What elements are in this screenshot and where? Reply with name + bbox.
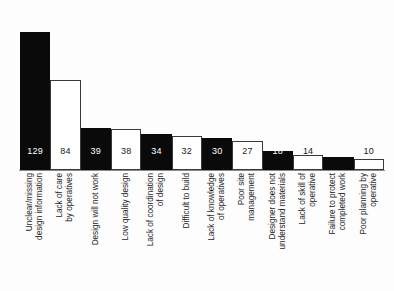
category-label-cell: Poor planning byoperative	[354, 173, 384, 287]
category-label-2: Design will not work	[91, 173, 101, 287]
bar-cell[interactable]: 84	[50, 10, 80, 170]
bar-cell[interactable]: 27	[232, 10, 262, 170]
bar-11[interactable]: 10	[354, 159, 384, 170]
bar-1[interactable]: 84	[50, 80, 80, 170]
bar-value-label: 14	[303, 147, 313, 169]
bar-value-label: 32	[182, 147, 192, 169]
bar-6[interactable]: 30	[202, 138, 232, 170]
bar-value-label: 18	[273, 147, 283, 169]
bars-container: 129 84 39 38 34	[20, 10, 384, 170]
bar-cell[interactable]: 12	[323, 10, 353, 170]
bar-cell[interactable]: 18	[263, 10, 293, 170]
bar-9[interactable]: 14	[293, 155, 323, 170]
category-label-cell: Poor sitemanagement	[232, 173, 262, 287]
category-label-9: Lack of skill ofoperative	[298, 173, 318, 287]
category-labels: Unclear/missingdesign information Lack o…	[20, 173, 384, 287]
category-label-5: Difficult to build	[182, 173, 192, 287]
category-label-3: Low quality design	[121, 173, 131, 287]
bar-7[interactable]: 27	[232, 141, 262, 170]
category-label-cell: Lack of careby operatives	[50, 173, 80, 287]
category-label-cell: Lack of skill ofoperative	[293, 173, 323, 287]
category-label-cell: Difficult to build	[172, 173, 202, 287]
category-label-cell: Designer does notunderstand materials	[263, 173, 293, 287]
bar-cell[interactable]: 10	[354, 10, 384, 170]
bar-chart: 129 84 39 38 34	[0, 0, 394, 291]
bar-value-label: 39	[91, 147, 101, 169]
bar-cell[interactable]: 129	[20, 10, 50, 170]
bar-5[interactable]: 32	[172, 136, 202, 170]
x-axis-baseline	[19, 170, 385, 171]
bar-value-label: 27	[242, 147, 252, 169]
category-label-1: Lack of careby operatives	[55, 173, 75, 287]
bar-cell[interactable]: 14	[293, 10, 323, 170]
bar-3[interactable]: 38	[111, 129, 141, 170]
bar-value-label: 10	[364, 147, 374, 169]
bar-value-label: 34	[151, 147, 161, 169]
category-label-cell: Lack of coordinationof design	[141, 173, 171, 287]
bar-cell[interactable]: 38	[111, 10, 141, 170]
bar-8[interactable]: 18	[263, 151, 293, 170]
category-label-7: Poor sitemanagement	[237, 173, 257, 287]
bar-value-label: 129	[27, 147, 43, 169]
category-label-6: Lack of knowledgeof operatives	[207, 173, 227, 287]
bar-cell[interactable]: 34	[141, 10, 171, 170]
bar-value-label: 30	[212, 147, 222, 169]
category-label-4: Lack of coordinationof design	[146, 173, 166, 287]
bar-cell[interactable]: 32	[172, 10, 202, 170]
category-label-cell: Unclear/missingdesign information	[20, 173, 50, 287]
bar-cell[interactable]: 39	[81, 10, 111, 170]
bar-value-label: 12	[333, 147, 343, 169]
bar-value-label: 38	[121, 147, 131, 169]
category-label-cell: Low quality design	[111, 173, 141, 287]
category-label-8: Designer does notunderstand materials	[268, 173, 288, 287]
plot-area: 129 84 39 38 34	[20, 10, 384, 170]
bar-4[interactable]: 34	[141, 134, 171, 170]
category-label-cell: Failure to protectcompleted work	[323, 173, 353, 287]
bar-cell[interactable]: 30	[202, 10, 232, 170]
bar-0[interactable]: 129	[20, 32, 50, 170]
bar-10[interactable]: 12	[323, 157, 353, 170]
category-label-0: Unclear/missingdesign information	[25, 173, 45, 287]
bar-value-label: 84	[60, 147, 70, 169]
category-label-11: Poor planning byoperative	[359, 173, 379, 287]
category-label-cell: Design will not work	[81, 173, 111, 287]
category-label-10: Failure to protectcompleted work	[328, 173, 348, 287]
bar-2[interactable]: 39	[81, 128, 111, 170]
category-label-cell: Lack of knowledgeof operatives	[202, 173, 232, 287]
